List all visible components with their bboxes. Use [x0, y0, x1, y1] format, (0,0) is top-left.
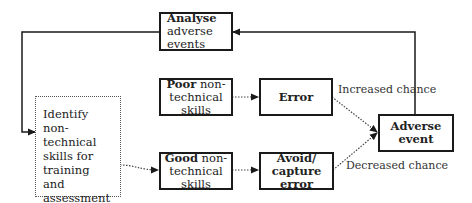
dotted-arrow-error-to-adverse: [332, 97, 377, 132]
node-analyse-rest: adverse events: [167, 24, 213, 51]
dotted-arrow-identify-to-good: [120, 165, 158, 170]
node-poor-bold: Poor: [166, 77, 196, 91]
node-poor-skills: Poor non-technical skills: [159, 78, 233, 116]
node-error-label: Error: [279, 91, 314, 104]
node-analyse-bold: Analyse: [167, 11, 217, 25]
edge-label-increased-chance: Increased chance: [338, 83, 436, 96]
node-analyse-adverse-events: Analyse adverse events: [159, 12, 233, 51]
node-avoid-capture-error: Avoid/ capture error: [259, 152, 334, 190]
edge-label-decreased-chance: Decreased chance: [346, 159, 448, 172]
node-good-bold: Good: [165, 151, 198, 165]
node-good-skills: Good non-technical skills: [159, 152, 233, 190]
node-identify-skills: Identify non-technical skills for traini…: [35, 96, 121, 197]
node-error: Error: [259, 78, 333, 116]
node-adverse-label: Adverse event: [383, 120, 449, 146]
node-identify-text: Identify non-technical skills for traini…: [43, 107, 110, 203]
node-avoid-label: Avoid/ capture error: [264, 152, 329, 191]
node-adverse-event: Adverse event: [378, 114, 454, 152]
